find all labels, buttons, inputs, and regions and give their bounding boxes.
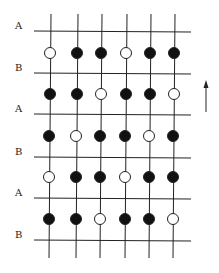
arrowhead-icon bbox=[204, 80, 209, 88]
horizontal-line bbox=[34, 198, 191, 199]
horizontal-line bbox=[34, 157, 191, 158]
open-circle bbox=[95, 214, 106, 225]
filled-circle bbox=[120, 214, 131, 225]
horizontal-line bbox=[34, 240, 191, 241]
filled-circle bbox=[144, 214, 155, 225]
horizontal-line bbox=[34, 114, 191, 115]
filled-circle bbox=[96, 48, 107, 59]
open-circle bbox=[44, 172, 55, 183]
filled-circle bbox=[71, 214, 82, 225]
horizontal-line bbox=[34, 73, 191, 74]
open-circle bbox=[168, 214, 179, 225]
open-circle bbox=[120, 172, 131, 183]
filled-circle bbox=[72, 48, 83, 59]
open-circle bbox=[45, 48, 56, 59]
lattice-diagram bbox=[0, 0, 219, 273]
filled-circle bbox=[95, 172, 106, 183]
open-circle bbox=[144, 131, 155, 142]
open-circle bbox=[121, 48, 132, 59]
filled-circle bbox=[144, 172, 155, 183]
horizontal-line bbox=[34, 31, 191, 32]
filled-circle bbox=[71, 172, 82, 183]
filled-circle bbox=[44, 214, 55, 225]
filled-circle bbox=[120, 131, 131, 142]
filled-circle bbox=[169, 48, 180, 59]
filled-circle bbox=[168, 131, 179, 142]
open-circle bbox=[96, 89, 107, 100]
filled-circle bbox=[121, 89, 132, 100]
filled-circle bbox=[45, 89, 56, 100]
open-circle bbox=[71, 131, 82, 142]
filled-circle bbox=[44, 131, 55, 142]
filled-circle bbox=[145, 48, 156, 59]
filled-circle bbox=[72, 89, 83, 100]
open-circle bbox=[169, 89, 180, 100]
filled-circle bbox=[95, 131, 106, 142]
filled-circle bbox=[145, 89, 156, 100]
filled-circle bbox=[168, 172, 179, 183]
